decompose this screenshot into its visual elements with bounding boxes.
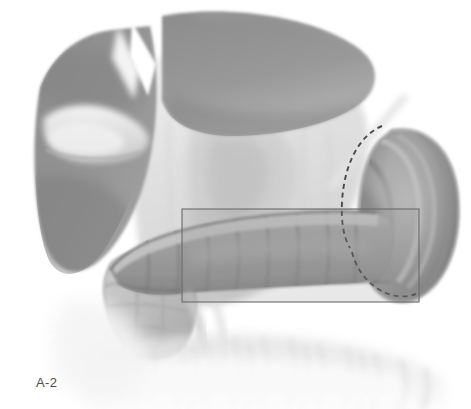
- figure-label: A-2: [36, 375, 57, 390]
- highlight-rectangle-group[interactable]: [182, 209, 419, 302]
- highlight-rectangle[interactable]: [182, 209, 419, 302]
- figure-illustration: A-2: [0, 0, 471, 409]
- anatomy-illustration-canvas: [0, 0, 471, 409]
